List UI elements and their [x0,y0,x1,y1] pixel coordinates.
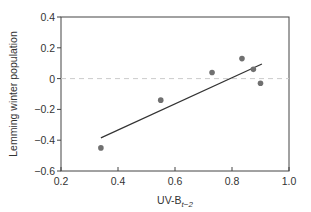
regression-line [101,64,262,138]
data-point [251,67,257,73]
data-point [239,56,245,62]
y-tick-label: −0.2 [34,103,55,115]
y-axis-ticks: 0.40.20−0.2−0.4−0.6 [34,11,61,177]
x-tick-label: 0.4 [111,175,126,187]
y-axis-label: Lemming winter population [7,31,19,157]
y-tick-label: −0.4 [34,134,55,146]
y-tick-label: 0.2 [40,42,55,54]
data-point [158,97,164,103]
y-tick-label: 0.4 [40,11,55,23]
x-axis-label: UV-Bt−2 [157,194,193,209]
x-tick-label: 0.6 [168,175,183,187]
data-point [258,80,264,86]
data-points [98,56,263,151]
x-tick-label: 0.2 [54,175,69,187]
x-axis-ticks: 0.20.40.60.81.0 [54,167,297,187]
fit-line [101,64,262,138]
scatter-chart: 0.20.40.60.81.0 0.40.20−0.2−0.4−0.6 UV-B… [0,0,311,212]
x-tick-label: 0.8 [225,175,240,187]
plot-frame [61,17,289,171]
plot-border [61,17,289,171]
y-tick-label: −0.6 [34,165,55,177]
y-tick-label: 0 [49,73,55,85]
data-point [98,145,104,151]
data-point [209,70,215,76]
x-tick-label: 1.0 [282,175,297,187]
